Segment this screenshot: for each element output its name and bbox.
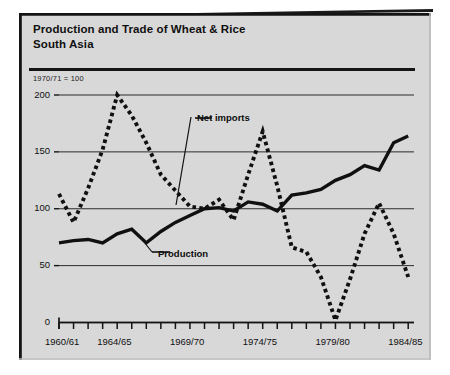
y-tick-label-200: 200 [20, 89, 50, 100]
data-series-group [59, 95, 408, 320]
chart-screenshot: Production and Trade of Wheat & Rice Sou… [0, 0, 450, 375]
y-tick-label-0: 0 [20, 316, 50, 327]
x-tick-label-1960-61: 1960/61 [45, 336, 79, 347]
x-tick-label-1979-80: 1979/80 [315, 336, 349, 347]
series-label-net-imports: Net imports [197, 112, 250, 123]
chart-plot-area [0, 0, 450, 375]
y-tick-label-150: 150 [20, 145, 50, 156]
x-tick-label-1964-65: 1964/65 [97, 336, 131, 347]
x-tick-label-1974-75: 1974/75 [243, 336, 277, 347]
annotation-leader-lines [137, 117, 212, 252]
x-tick-label-1984-85: 1984/85 [388, 336, 422, 347]
y-tick-label-50: 50 [20, 259, 50, 270]
y-tick-label-100: 100 [20, 202, 50, 213]
series-label-production: Production [158, 248, 208, 259]
series-line-net-imports [59, 95, 408, 320]
x-tick-label-1969-70: 1969/70 [170, 336, 204, 347]
